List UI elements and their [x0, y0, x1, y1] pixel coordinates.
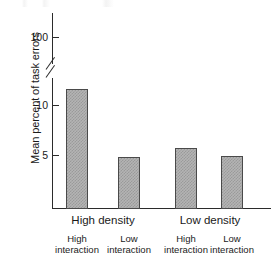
- y-tick-label-100: 100: [18, 31, 48, 43]
- y-axis-line: [52, 13, 53, 209]
- sublabel-line1: Low: [197, 233, 267, 244]
- y-tick-5: [52, 155, 59, 156]
- bar-high-density-high-interaction: [66, 89, 88, 209]
- bar-low-density-high-interaction: [175, 148, 197, 209]
- sublabel-line2: interaction: [197, 244, 267, 255]
- y-tick-100: [52, 37, 59, 38]
- sublabel-low-density-low-interaction: Low interaction: [197, 233, 267, 255]
- cropped-caption-artifact: [22, 0, 172, 7]
- bar-high-density-low-interaction: [118, 157, 140, 209]
- group-label-low-density: Low density: [155, 214, 265, 226]
- group-label-high-density: High density: [48, 214, 158, 226]
- axis-break-icon: [46, 62, 60, 80]
- y-tick-label-10: 10: [18, 99, 48, 111]
- bar-chart: Mean percent of task errors 100 10 5 Hig…: [0, 0, 274, 259]
- y-tick-10: [52, 105, 59, 106]
- y-tick-label-5: 5: [18, 149, 48, 161]
- bar-low-density-low-interaction: [221, 156, 243, 209]
